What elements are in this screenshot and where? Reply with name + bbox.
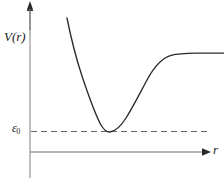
epsilon-zero-label: ε0 xyxy=(12,122,20,136)
x-axis xyxy=(30,148,211,156)
potential-energy-curve xyxy=(67,18,224,132)
y-axis-label: V(r) xyxy=(4,30,26,43)
x-axis-label: r xyxy=(213,143,218,156)
epsilon-subscript: 0 xyxy=(16,127,20,136)
potential-energy-figure: V(r) r ε0 xyxy=(0,0,224,187)
plot-canvas xyxy=(0,0,224,187)
